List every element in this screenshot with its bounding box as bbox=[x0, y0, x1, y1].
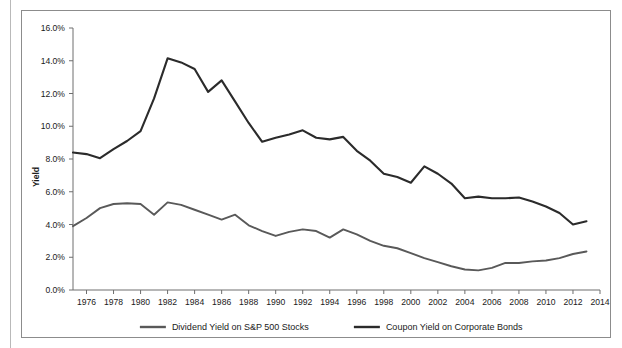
x-tick-label: 2006 bbox=[482, 297, 501, 307]
y-axis-ticks: 0.0%2.0%4.0%6.0%8.0%10.0%12.0%14.0%16.0% bbox=[41, 23, 73, 295]
series-lines bbox=[73, 58, 586, 270]
legend-label-1: Dividend Yield on S&P 500 Stocks bbox=[172, 322, 309, 332]
y-tick-label: 16.0% bbox=[41, 23, 66, 33]
x-tick-label: 2012 bbox=[563, 297, 582, 307]
y-tick-label: 12.0% bbox=[41, 89, 66, 99]
x-tick-label: 2014 bbox=[590, 297, 609, 307]
x-tick-label: 2004 bbox=[455, 297, 474, 307]
x-tick-label: 2000 bbox=[401, 297, 420, 307]
x-tick-label: 1982 bbox=[158, 297, 177, 307]
chart-legend: Dividend Yield on S&P 500 StocksCoupon Y… bbox=[140, 322, 523, 332]
legend-label-2: Coupon Yield on Corporate Bonds bbox=[386, 322, 523, 332]
x-tick-label: 1976 bbox=[77, 297, 96, 307]
x-tick-label: 1980 bbox=[131, 297, 150, 307]
y-tick-label: 10.0% bbox=[41, 121, 66, 131]
x-tick-label: 1998 bbox=[374, 297, 393, 307]
series-line-2 bbox=[73, 58, 586, 224]
y-tick-label: 6.0% bbox=[45, 187, 65, 197]
y-tick-label: 4.0% bbox=[45, 220, 65, 230]
y-tick-label: 2.0% bbox=[45, 252, 65, 262]
page-root: 0.0%2.0%4.0%6.0%8.0%10.0%12.0%14.0%16.0%… bbox=[0, 0, 622, 348]
page-margin-rule bbox=[10, 0, 11, 348]
x-tick-label: 1984 bbox=[185, 297, 204, 307]
line-chart: 0.0%2.0%4.0%6.0%8.0%10.0%12.0%14.0%16.0%… bbox=[22, 11, 612, 339]
x-tick-label: 1988 bbox=[239, 297, 258, 307]
x-tick-label: 1994 bbox=[320, 297, 339, 307]
x-tick-label: 1978 bbox=[104, 297, 123, 307]
y-tick-label: 8.0% bbox=[45, 154, 65, 164]
x-tick-label: 2008 bbox=[509, 297, 528, 307]
x-tick-label: 1996 bbox=[347, 297, 366, 307]
y-axis-title: Yield bbox=[31, 167, 41, 187]
x-tick-label: 1986 bbox=[212, 297, 231, 307]
x-axis-ticks: 1976197819801982198419861988199019921994… bbox=[77, 290, 610, 307]
figure-container: 0.0%2.0%4.0%6.0%8.0%10.0%12.0%14.0%16.0%… bbox=[21, 10, 611, 338]
chart-canvas: 0.0%2.0%4.0%6.0%8.0%10.0%12.0%14.0%16.0%… bbox=[22, 11, 612, 339]
series-line-1 bbox=[73, 202, 586, 270]
x-tick-label: 2002 bbox=[428, 297, 447, 307]
x-tick-label: 2010 bbox=[536, 297, 555, 307]
y-tick-label: 14.0% bbox=[41, 56, 66, 66]
x-tick-label: 1990 bbox=[266, 297, 285, 307]
y-tick-label: 0.0% bbox=[45, 285, 65, 295]
x-tick-label: 1992 bbox=[293, 297, 312, 307]
